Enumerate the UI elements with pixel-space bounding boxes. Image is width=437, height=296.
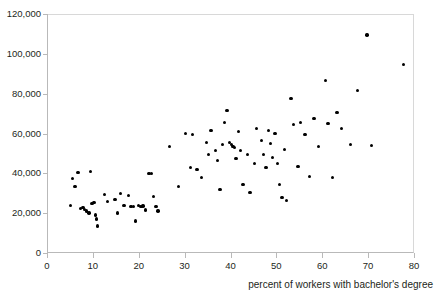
data-point [276, 162, 279, 165]
data-point [273, 132, 276, 135]
data-point [177, 185, 180, 188]
data-point [241, 183, 244, 186]
data-point [209, 129, 212, 132]
y-axis-tick [43, 173, 48, 174]
data-point [349, 143, 352, 146]
y-axis-tick [43, 94, 48, 95]
data-point [216, 159, 219, 162]
data-point [296, 165, 299, 168]
data-point [69, 204, 72, 207]
data-point [234, 157, 237, 160]
x-axis-tick-label: 70 [348, 261, 388, 271]
data-point [303, 133, 306, 136]
y-axis-tick-label: 120,000 [0, 9, 41, 19]
data-point [168, 145, 171, 148]
x-axis-title: percent of workers with bachelor's degre… [0, 279, 433, 291]
data-point [308, 175, 311, 178]
data-point [292, 123, 295, 126]
x-axis-tick [368, 253, 369, 258]
data-point [95, 217, 98, 220]
data-point [285, 199, 288, 202]
y-axis-tick-label: 60,000 [0, 129, 41, 139]
data-point [195, 168, 198, 171]
x-axis-tick-label: 30 [165, 261, 205, 271]
data-point [264, 166, 267, 169]
data-point [92, 201, 95, 204]
data-point [134, 219, 137, 222]
data-point [113, 198, 116, 201]
data-point [223, 121, 226, 124]
data-point [283, 148, 286, 151]
data-point [119, 192, 122, 195]
data-point [280, 196, 283, 199]
x-axis-tick [414, 253, 415, 258]
data-point [144, 208, 147, 211]
data-point [191, 133, 194, 136]
x-axis-tick [231, 253, 232, 258]
y-axis-tick [43, 54, 48, 55]
data-point [317, 145, 320, 148]
x-axis-tick-label: 0 [27, 261, 67, 271]
data-point [246, 153, 249, 156]
x-axis-tick-label: 50 [256, 261, 296, 271]
y-axis-tick [43, 134, 48, 135]
data-points-layer [48, 15, 413, 252]
data-point [289, 97, 292, 100]
data-point [324, 79, 327, 82]
x-axis-tick [47, 253, 48, 258]
data-point [214, 149, 217, 152]
y-axis-tick [43, 14, 48, 15]
data-point [237, 130, 240, 133]
data-point [94, 213, 97, 216]
data-point [248, 191, 251, 194]
data-point [260, 139, 263, 142]
data-point [106, 200, 109, 203]
scatter-chart: percent of workers with bachelor's degre… [0, 0, 437, 296]
data-point [132, 205, 135, 208]
x-axis-tick [276, 253, 277, 258]
data-point [189, 166, 192, 169]
data-point [335, 111, 338, 114]
data-point [89, 170, 92, 173]
data-point [218, 188, 221, 191]
data-point [150, 172, 153, 175]
data-point [239, 149, 242, 152]
data-point [154, 205, 157, 208]
data-point [312, 117, 315, 120]
x-axis-tick-label: 80 [394, 261, 434, 271]
data-point [76, 171, 79, 174]
data-point [255, 127, 258, 130]
data-point [402, 63, 405, 66]
data-point [152, 195, 155, 198]
data-point [71, 177, 74, 180]
y-axis-tick-label: 20,000 [0, 208, 41, 218]
x-axis-tick [185, 253, 186, 258]
data-point [340, 127, 343, 130]
data-point [299, 121, 302, 124]
plot-area [47, 14, 414, 253]
data-point [141, 204, 144, 207]
data-point [365, 33, 368, 36]
y-axis-tick-label: 0 [0, 248, 41, 258]
y-axis-tick-label: 80,000 [0, 89, 41, 99]
y-axis-tick-label: 40,000 [0, 168, 41, 178]
data-point [96, 224, 99, 227]
data-point [205, 141, 208, 144]
data-point [269, 142, 272, 145]
data-point [103, 193, 106, 196]
data-point [331, 176, 334, 179]
data-point [184, 132, 187, 135]
data-point [370, 144, 373, 147]
x-axis-tick [139, 253, 140, 258]
y-axis-tick [43, 213, 48, 214]
x-axis-tick-label: 60 [302, 261, 342, 271]
data-point [233, 146, 236, 149]
x-axis-tick-label: 40 [211, 261, 251, 271]
data-point [221, 143, 224, 146]
y-axis-tick-label: 100,000 [0, 49, 41, 59]
data-point [253, 162, 256, 165]
data-point [122, 204, 125, 207]
data-point [116, 211, 119, 214]
x-axis-tick [322, 253, 323, 258]
data-point [73, 185, 76, 188]
